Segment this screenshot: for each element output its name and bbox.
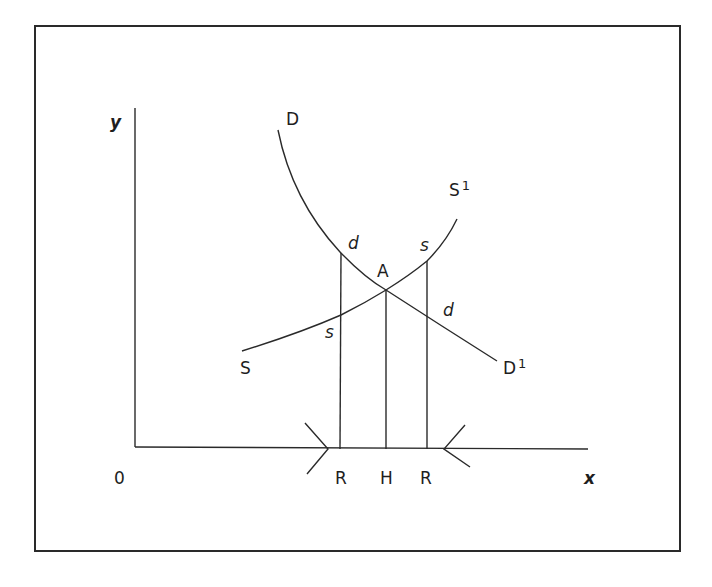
origin-label: 0	[114, 470, 125, 487]
demand-curve	[278, 130, 497, 361]
left-pointing-arrow-icon	[444, 425, 470, 467]
x-axis-label: x	[584, 470, 595, 487]
equilibrium-label: A	[377, 263, 389, 280]
left-r-line	[340, 253, 341, 449]
supply-end-label: S1	[449, 182, 470, 199]
supply-start-label: S	[240, 360, 251, 377]
x-marker-h: H	[380, 470, 393, 487]
s-lower-label: s	[325, 324, 334, 341]
demand-end-label: D1	[503, 360, 526, 377]
x-marker-r-right: R	[420, 470, 432, 487]
x-axis	[135, 447, 588, 449]
x-marker-r-left: R	[335, 470, 347, 487]
d-lower-label: d	[443, 302, 454, 319]
diagram-canvas	[0, 0, 712, 587]
y-axis-label: y	[110, 114, 121, 131]
d-upper-label: d	[348, 235, 359, 252]
demand-start-label: D	[286, 111, 299, 128]
s-upper-label: s	[420, 237, 429, 254]
